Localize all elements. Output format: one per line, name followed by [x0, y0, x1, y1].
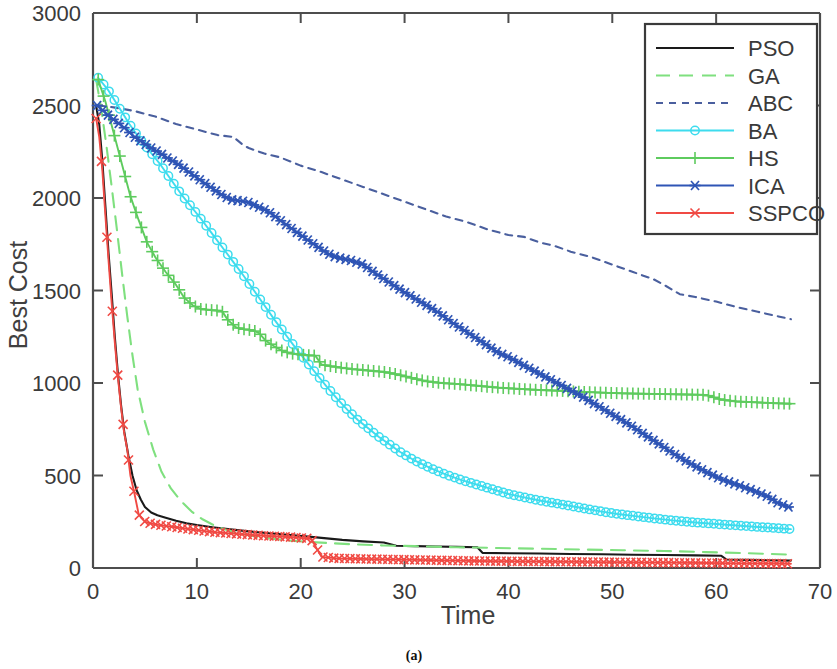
x-tick-label: 40	[496, 579, 520, 604]
legend-label-hs: HS	[748, 146, 779, 171]
x-tick-label: 30	[392, 579, 416, 604]
legend-label-sspco: SSPCO	[748, 201, 825, 226]
y-tick-label: 1500	[32, 279, 81, 304]
y-tick-label: 500	[44, 464, 81, 489]
y-tick-label: 2000	[32, 186, 81, 211]
best-cost-vs-time-chart: 050010001500200025003000 010203040506070…	[0, 0, 837, 669]
x-tick-label: 60	[704, 579, 728, 604]
figure-caption: (a)	[406, 648, 423, 664]
y-tick-label: 2500	[32, 94, 81, 119]
chart-legend[interactable]: PSOGAABCBAHSICASSPCO	[645, 24, 825, 234]
x-tick-label: 50	[600, 579, 624, 604]
y-tick-label: 3000	[32, 1, 81, 26]
legend-label-ica: ICA	[748, 174, 785, 199]
x-tick-label: 10	[185, 579, 209, 604]
y-tick-label: 1000	[32, 371, 81, 396]
legend-label-pso: PSO	[748, 36, 794, 61]
y-axis-label: Best Cost	[4, 241, 32, 349]
legend-label-abc: ABC	[748, 91, 793, 116]
y-tick-label: 0	[69, 556, 81, 581]
legend-label-ba: BA	[748, 119, 778, 144]
x-tick-label: 20	[288, 579, 312, 604]
legend-label-ga: GA	[748, 64, 780, 89]
x-axis-label: Time	[441, 601, 496, 629]
x-tick-label: 70	[808, 579, 832, 604]
x-tick-label: 0	[87, 579, 99, 604]
figure-panel: 050010001500200025003000 010203040506070…	[0, 0, 837, 669]
